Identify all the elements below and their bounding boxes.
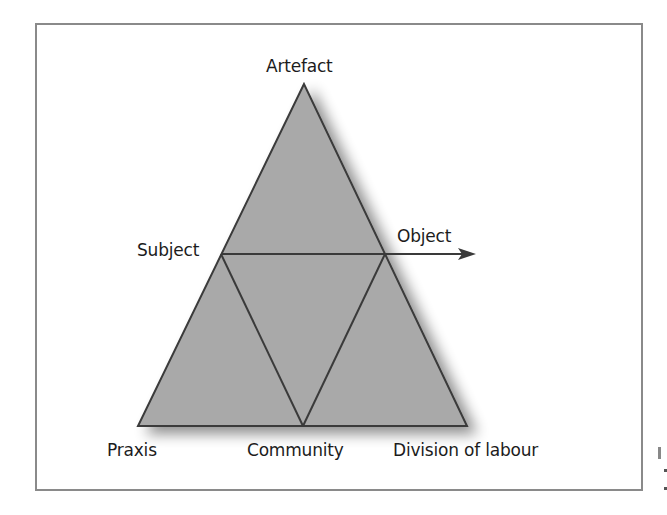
activity-triangle-diagram: [0, 0, 667, 515]
cropped-text-fragment: [658, 447, 661, 459]
label-community: Community: [247, 442, 344, 459]
label-artefact: Artefact: [266, 58, 333, 75]
label-object: Object: [397, 228, 451, 245]
label-division-of-labour: Division of labour: [393, 442, 538, 459]
label-subject: Subject: [137, 242, 199, 259]
label-praxis: Praxis: [107, 442, 157, 459]
